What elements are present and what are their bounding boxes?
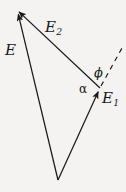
vector-label-e: E <box>5 43 16 58</box>
vector-e-resultant-line <box>18 14 58 180</box>
reference-axis-dashed-line <box>101 48 122 86</box>
vector-label-e1: E1 <box>102 91 119 106</box>
angle-label-alpha: α <box>79 83 87 95</box>
vector-label-e2: E2 <box>45 20 62 35</box>
vector-e1-line <box>58 92 98 180</box>
vector-diagram-figure: E E2 E1 ϕ α <box>0 0 126 192</box>
angle-label-phi: ϕ <box>94 66 103 79</box>
